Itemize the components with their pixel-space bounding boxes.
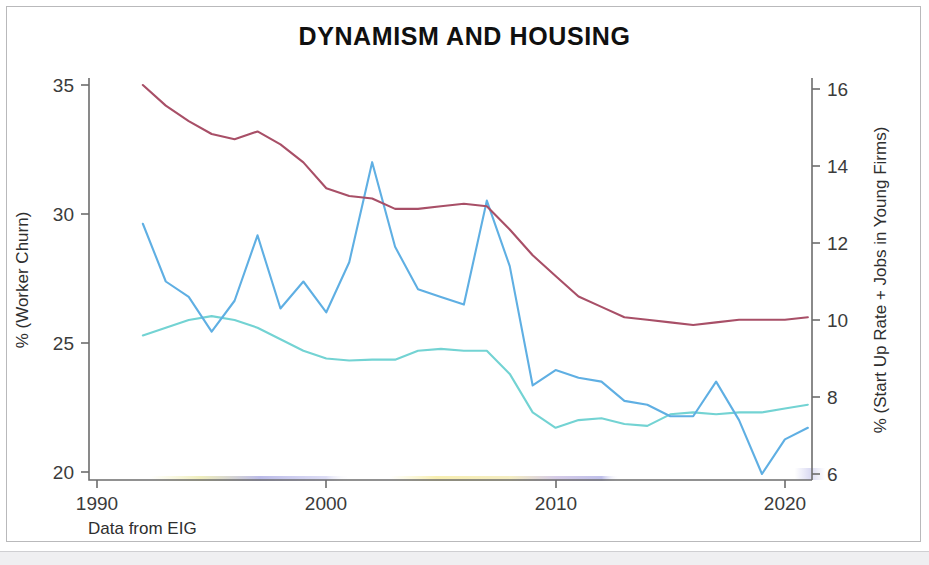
x-tick-label-2020: 2020 [764, 493, 806, 514]
source-note: Data from EIG [88, 519, 197, 539]
x-tick-label-2010: 2010 [535, 493, 577, 514]
slide-bottom-edge [0, 551, 929, 565]
left-tick-label-30: 30 [53, 204, 74, 225]
right-tick-label-12: 12 [827, 233, 848, 254]
highlighter-smudges [150, 468, 825, 481]
series-layer [143, 85, 808, 474]
left-tick-label-25: 25 [53, 333, 74, 354]
right-tick-label-10: 10 [827, 310, 848, 331]
right-tick-label-8: 8 [827, 387, 838, 408]
series-path-jobs-in-young-firms [143, 316, 808, 428]
line-chart: 35 30 25 20 % (Worker Churn) 16 14 12 10… [0, 0, 929, 565]
series-path-worker-churn [143, 85, 808, 325]
x-axis: 1990 2000 2010 2020 [76, 480, 806, 514]
left-tick-label-35: 35 [53, 75, 74, 96]
left-tick-label-20: 20 [53, 462, 74, 483]
left-axis-title: % (Worker Churn) [13, 212, 32, 349]
right-tick-label-14: 14 [827, 156, 849, 177]
left-axis-ticks [81, 85, 89, 472]
right-tick-label-6: 6 [827, 464, 838, 485]
right-axis-title: % (Start Up Rate + Jobs in Young Firms) [871, 127, 890, 434]
right-tick-label-16: 16 [827, 79, 848, 100]
right-axis: 16 14 12 10 8 6 % (Start Up Rate + Jobs … [812, 78, 890, 485]
right-axis-ticks [812, 89, 820, 474]
series-path-start-up-rate [143, 162, 808, 474]
x-tick-label-1990: 1990 [76, 493, 118, 514]
slide-canvas: DYNAMISM AND HOUSING [0, 0, 929, 565]
x-tick-label-2000: 2000 [305, 493, 347, 514]
